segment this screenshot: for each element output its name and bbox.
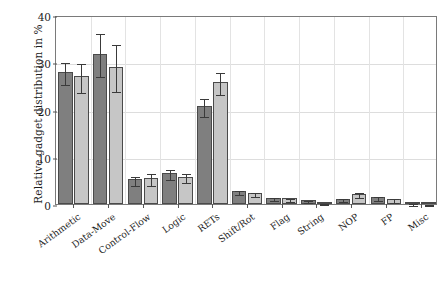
error-bar-cap-upper bbox=[96, 34, 105, 35]
x-gridline bbox=[125, 17, 126, 204]
error-bar-cap-lower bbox=[304, 203, 313, 204]
y-axis-tick-label: 0 bbox=[44, 200, 51, 212]
error-bar-line bbox=[151, 174, 152, 186]
error-bar-cap-upper bbox=[166, 170, 175, 171]
error-bar-cap-lower bbox=[147, 186, 156, 187]
error-bar-cap-lower bbox=[112, 92, 121, 93]
error-bar-cap-upper bbox=[182, 174, 191, 175]
x-axis-tick-mark bbox=[421, 204, 422, 208]
error-bar-line bbox=[100, 34, 101, 77]
bar-series-1-arithmetic bbox=[58, 72, 73, 204]
error-bar-cap-upper bbox=[131, 177, 140, 178]
bar-series-2-rets bbox=[213, 82, 228, 204]
error-bar-cap-lower bbox=[251, 197, 260, 198]
error-bar-cap-lower bbox=[96, 77, 105, 78]
x-gridline bbox=[334, 17, 335, 204]
error-bar-line bbox=[220, 73, 221, 95]
x-gridline bbox=[230, 17, 231, 204]
error-bar-cap-lower bbox=[131, 186, 140, 187]
y-axis-tick-label: 10 bbox=[38, 153, 51, 165]
error-bar-cap-upper bbox=[355, 193, 364, 194]
error-bar-cap-lower bbox=[166, 180, 175, 181]
error-bar-cap-lower bbox=[61, 85, 70, 86]
x-gridline bbox=[91, 17, 92, 204]
x-axis-tick-mark bbox=[73, 204, 74, 208]
x-axis-tick-mark bbox=[108, 204, 109, 208]
error-bar-line bbox=[186, 174, 187, 183]
error-bar-cap-lower bbox=[355, 198, 364, 199]
error-bar-line bbox=[170, 170, 171, 180]
plot-area: 010203040 bbox=[55, 16, 437, 205]
error-bar-cap-lower bbox=[270, 201, 279, 202]
error-bar-cap-upper bbox=[374, 197, 383, 198]
x-axis-tick-mark bbox=[282, 204, 283, 208]
y-axis-tick-mark bbox=[53, 158, 57, 159]
y-axis-tick-mark bbox=[53, 111, 57, 112]
error-bar-cap-upper bbox=[251, 193, 260, 194]
error-bar-cap-upper bbox=[409, 204, 418, 205]
error-bar-cap-upper bbox=[390, 199, 399, 200]
x-axis-tick-label: Logic bbox=[160, 211, 187, 235]
x-gridline bbox=[299, 17, 300, 204]
x-axis-tick-mark bbox=[143, 204, 144, 208]
error-bar-cap-lower bbox=[77, 93, 86, 94]
y-axis-tick-mark bbox=[53, 17, 57, 18]
error-bar-line bbox=[116, 45, 117, 92]
x-axis-tick-mark bbox=[178, 204, 179, 208]
x-axis-tick-label: FP bbox=[379, 211, 396, 227]
error-bar-cap-lower bbox=[216, 95, 225, 96]
y-axis-tick-mark bbox=[53, 64, 57, 65]
error-bar-cap-upper bbox=[61, 63, 70, 64]
x-axis-tick-label: RETs bbox=[196, 211, 222, 234]
error-bar-line bbox=[65, 63, 66, 85]
error-bar-cap-lower bbox=[235, 195, 244, 196]
error-bar-cap-upper bbox=[77, 64, 86, 65]
error-bar-cap-upper bbox=[147, 174, 156, 175]
x-axis-tick-label: String bbox=[296, 211, 326, 237]
error-bar-cap-upper bbox=[235, 191, 244, 192]
x-axis-tick-label: Misc bbox=[405, 211, 430, 233]
bar-series-2-misc bbox=[421, 202, 436, 204]
y-axis-tick-label: 30 bbox=[38, 58, 51, 70]
x-gridline bbox=[160, 17, 161, 204]
y-axis-tick-label: 40 bbox=[38, 11, 51, 23]
error-bar-cap-lower bbox=[286, 202, 295, 203]
y-gridline bbox=[56, 64, 436, 65]
bar-series-2-arithmetic bbox=[74, 76, 89, 204]
x-gridline bbox=[264, 17, 265, 204]
error-bar-cap-lower bbox=[339, 202, 348, 203]
error-bar-cap-upper bbox=[200, 99, 209, 100]
error-bar-cap-lower bbox=[374, 201, 383, 202]
error-bar-cap-lower bbox=[200, 117, 209, 118]
error-bar-cap-lower bbox=[320, 205, 329, 206]
error-bar-cap-lower bbox=[409, 206, 418, 207]
error-bar-line bbox=[135, 177, 136, 186]
x-axis-tick-mark bbox=[247, 204, 248, 208]
error-bar-cap-upper bbox=[304, 201, 313, 202]
x-gridline bbox=[195, 17, 196, 204]
error-bar-cap-lower bbox=[425, 206, 434, 207]
bar-series-1-rets bbox=[197, 106, 212, 204]
error-bar-cap-upper bbox=[339, 199, 348, 200]
error-bar-line bbox=[204, 99, 205, 117]
x-axis-tick-mark bbox=[386, 204, 387, 208]
x-axis-tick-label: Flag bbox=[268, 211, 291, 232]
x-gridline bbox=[403, 17, 404, 204]
error-bar-cap-lower bbox=[390, 203, 399, 204]
x-axis-tick-label: NOP bbox=[336, 211, 360, 233]
error-bar-cap-upper bbox=[270, 198, 279, 199]
error-bar-cap-lower bbox=[182, 183, 191, 184]
error-bar-cap-upper bbox=[216, 73, 225, 74]
x-gridline bbox=[369, 17, 370, 204]
y-axis-tick-label: 20 bbox=[38, 106, 51, 118]
error-bar-cap-upper bbox=[112, 45, 121, 46]
x-axis-tick-label: Shift/Rot bbox=[216, 211, 256, 245]
chart-figure: Relative gadget distribution in % 010203… bbox=[0, 0, 447, 286]
x-axis-tick-mark bbox=[212, 204, 213, 208]
error-bar-line bbox=[81, 64, 82, 92]
x-axis-tick-mark bbox=[316, 204, 317, 208]
error-bar-cap-upper bbox=[286, 199, 295, 200]
x-axis-tick-mark bbox=[351, 204, 352, 208]
y-axis-tick-mark bbox=[53, 206, 57, 207]
